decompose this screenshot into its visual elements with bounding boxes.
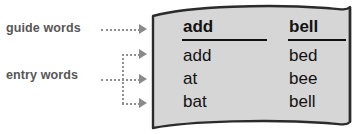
leader-line-guide-words	[101, 29, 140, 31]
leader-line-entry-3	[122, 103, 140, 105]
guide-word-underline-left	[182, 39, 267, 41]
entry-word-right-2: bee	[289, 69, 317, 89]
annotation-label-entry-words: entry words	[6, 68, 78, 82]
entry-word-left-2: at	[183, 69, 197, 89]
guide-word-underline-right	[288, 39, 346, 41]
arrowhead-right-icon-entry-1	[139, 49, 147, 59]
arrowhead-right-icon-entry-2	[139, 74, 147, 84]
leader-line-entry-1	[122, 54, 140, 56]
entry-word-right-3: bell	[289, 92, 315, 112]
arrowhead-right-icon-entry-3	[139, 98, 147, 108]
entry-word-left-1: add	[183, 46, 211, 66]
entry-word-left-3: bat	[183, 92, 207, 112]
entry-word-right-1: bed	[289, 46, 317, 66]
guide-word-right: bell	[289, 17, 318, 37]
annotation-label-guide-words: guide words	[6, 21, 81, 35]
dictionary-page-shape	[150, 2, 353, 132]
leader-line-entry-2	[122, 79, 140, 81]
guide-word-left: add	[183, 17, 213, 37]
leader-line-entry-words-stub	[101, 79, 124, 81]
arrowhead-right-icon-guide-words	[139, 24, 147, 34]
dictionary-page-illustration	[150, 2, 353, 132]
diagram-canvas: guide words entry words add bell add bed…	[0, 0, 353, 134]
